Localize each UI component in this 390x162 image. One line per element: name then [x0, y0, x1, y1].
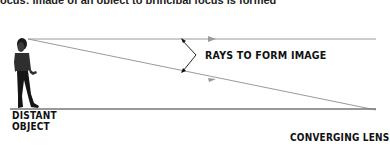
pointer-arrows-icon — [182, 40, 196, 71]
lens-label: CONVERGING LENS — [290, 133, 390, 144]
object-label-line2: OBJECT — [12, 121, 57, 132]
rays-label: RAYS TO FORM IMAGE — [205, 51, 327, 62]
diagonal-ray-arrow-icon — [208, 78, 216, 82]
person-figure-icon — [14, 38, 39, 108]
object-label: DISTANT OBJECT — [12, 110, 57, 132]
object-label-line1: DISTANT — [12, 110, 57, 121]
top-ray-arrow-icon — [208, 36, 216, 42]
